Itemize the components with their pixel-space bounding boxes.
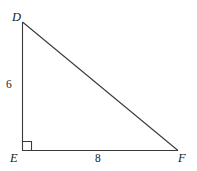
vertex-label-f: F (178, 152, 186, 165)
triangle-drawing (0, 0, 197, 171)
geometry-figure: D E F 6 8 (0, 0, 197, 171)
right-angle-marker (23, 142, 32, 151)
vertex-label-d: D (12, 11, 21, 24)
vertex-label-e: E (10, 152, 18, 165)
side-length-label-horizontal: 8 (95, 153, 101, 165)
hypotenuse-DF (23, 22, 179, 151)
side-length-label-vertical: 6 (6, 79, 12, 91)
